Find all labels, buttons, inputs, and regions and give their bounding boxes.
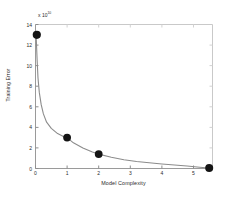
x-axis-title: Model Complexity <box>35 180 212 186</box>
x-tick-label: 0 <box>29 170 43 176</box>
y-tick-label: 6 <box>16 104 32 110</box>
y-tick-label: 10 <box>16 63 32 69</box>
chart-page: x 1010 0 2 4 6 8 10 12 14 0 1 2 3 4 5 Tr… <box>0 0 233 199</box>
data-point-marker <box>95 150 103 158</box>
y-tick-label: 4 <box>16 124 32 130</box>
x-tick-label: 5 <box>187 170 201 176</box>
y-tick-label: 14 <box>16 22 32 28</box>
x-tick-label: 2 <box>92 170 106 176</box>
x-tick-label: 1 <box>60 170 74 176</box>
y-tick-label: 2 <box>16 145 32 151</box>
y-axis-multiplier-exponent: 10 <box>47 11 51 15</box>
y-axis-title: Training Error <box>5 50 11 120</box>
y-tick-label: 12 <box>16 42 32 48</box>
data-point-marker <box>33 31 41 39</box>
x-tick-label: 3 <box>123 170 137 176</box>
x-tick-label: 4 <box>155 170 169 176</box>
y-axis-multiplier: x 1010 <box>38 11 51 18</box>
data-point-marker <box>205 164 213 172</box>
y-tick-label: 8 <box>16 83 32 89</box>
data-point-marker <box>63 134 71 142</box>
training-error-figure: x 1010 0 2 4 6 8 10 12 14 0 1 2 3 4 5 Tr… <box>0 0 233 199</box>
